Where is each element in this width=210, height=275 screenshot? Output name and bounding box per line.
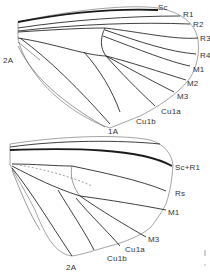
label-cu1a: Cu1a: [161, 108, 181, 116]
label-cu1a-hindwing: Cu1a: [125, 246, 145, 254]
label-m3-hindwing: M3: [148, 236, 160, 244]
label-cu1b-hindwing: Cu1b: [107, 255, 127, 263]
label-2a-hindwing: 2A: [66, 264, 76, 272]
label-r3: R3: [200, 35, 210, 43]
label-1a: 1A: [108, 128, 118, 136]
label-m1: M1: [193, 66, 205, 74]
label-m3: M3: [177, 93, 189, 101]
wing-venation-figure: Sc R1 R2 R3 R4 M1 M2 M3 Cu1a Cu1b 1A 2A …: [0, 0, 210, 275]
label-r1: R1: [183, 11, 194, 19]
label-m2: M2: [187, 80, 199, 88]
label-sc-r1: Sc+R1: [175, 164, 200, 172]
label-r4: R4: [200, 52, 210, 60]
label-m1-hindwing: M1: [168, 209, 180, 217]
label-2a-forewing: 2A: [3, 57, 13, 65]
label-sc: Sc: [158, 4, 168, 12]
label-r2: R2: [193, 21, 204, 29]
wing-diagram: [0, 0, 210, 275]
label-cu1b: Cu1b: [136, 118, 156, 126]
label-rs: Rs: [175, 190, 185, 198]
